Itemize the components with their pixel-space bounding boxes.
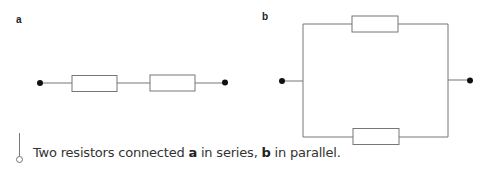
terminal-right-icon: [222, 80, 228, 86]
resistor-2: [150, 75, 195, 91]
parallel-circuit: [279, 16, 473, 145]
resistor-bottom: [353, 129, 399, 145]
caption-suffix: in parallel.: [271, 145, 341, 160]
terminal-left-icon: [37, 80, 43, 86]
caption-marker-icon: [16, 156, 23, 163]
caption-prefix: Two resistors connected: [33, 145, 188, 160]
caption-middle: in series,: [197, 145, 261, 160]
terminal-left-icon: [279, 78, 285, 84]
circuit-diagrams: [0, 0, 483, 169]
resistor-top: [352, 16, 398, 32]
resistor-1: [72, 76, 117, 92]
caption-marker-line: [19, 133, 20, 157]
caption-b-label: b: [262, 145, 271, 160]
caption-a-label: a: [188, 145, 197, 160]
series-circuit: [37, 75, 228, 92]
figure-caption: Two resistors connected a in series, b i…: [33, 145, 341, 160]
terminal-right-icon: [467, 78, 473, 84]
